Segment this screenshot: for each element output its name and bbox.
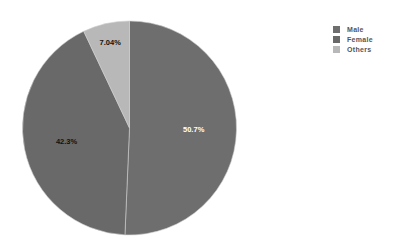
- pie-slice-male[interactable]: [125, 21, 237, 235]
- slice-label-male: 50.7%: [183, 125, 205, 134]
- legend-label-others: Others: [347, 46, 371, 53]
- legend-swatch-female: [333, 36, 340, 43]
- legend-label-male: Male: [347, 26, 364, 33]
- legend-swatch-others: [333, 46, 340, 53]
- slice-label-others: 7.04%: [100, 38, 122, 47]
- legend-item-male[interactable]: Male: [333, 24, 373, 34]
- legend-item-others[interactable]: Others: [333, 44, 373, 54]
- legend-swatch-male: [333, 26, 340, 33]
- chart-legend: Male Female Others: [333, 24, 373, 54]
- pie-chart: 50.7%42.3%7.04%: [0, 0, 300, 249]
- slice-label-female: 42.3%: [56, 137, 78, 146]
- legend-label-female: Female: [347, 36, 373, 43]
- legend-item-female[interactable]: Female: [333, 34, 373, 44]
